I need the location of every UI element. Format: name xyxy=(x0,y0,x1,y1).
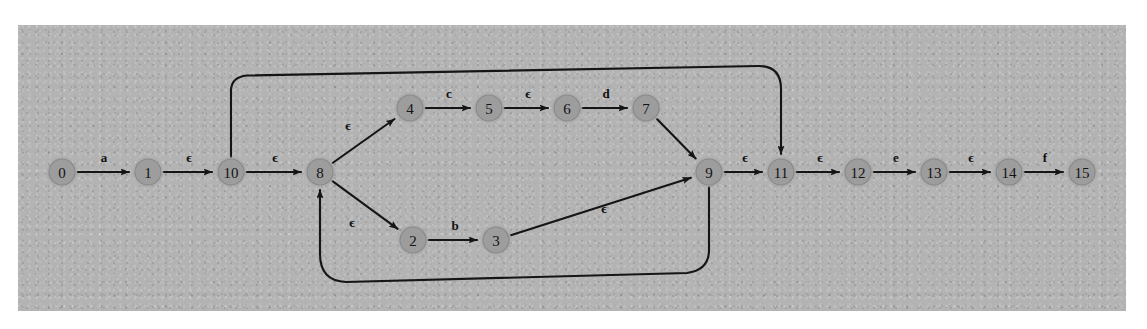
state-node-12[interactable]: 12 xyxy=(843,157,874,188)
state-node-1[interactable]: 1 xyxy=(133,157,164,188)
state-node-label: 15 xyxy=(1075,165,1090,181)
state-node-0[interactable]: 0 xyxy=(47,157,78,188)
edge-7-to-9 xyxy=(657,119,696,159)
state-node-4[interactable]: 4 xyxy=(395,93,426,124)
edge-label-5-6: ϵ xyxy=(525,86,531,101)
edge-label-0-1: a xyxy=(101,150,108,165)
state-node-label: 8 xyxy=(316,165,324,181)
nodes-layer: 0110845672391112131415 xyxy=(47,93,1098,256)
edge-label-14-15: f xyxy=(1043,150,1048,165)
state-node-15[interactable]: 15 xyxy=(1067,157,1098,188)
edge-label-1-10: ϵ xyxy=(186,150,192,165)
state-node-label: 9 xyxy=(705,165,713,181)
edge-8-to-2 xyxy=(333,181,398,229)
state-node-label: 12 xyxy=(851,165,866,181)
state-node-label: 3 xyxy=(492,233,500,249)
edge-label-2-3: b xyxy=(451,218,458,233)
edge-label-4-5: c xyxy=(446,86,452,101)
state-node-7[interactable]: 7 xyxy=(631,93,662,124)
state-node-8[interactable]: 8 xyxy=(305,157,336,188)
state-node-label: 6 xyxy=(563,101,571,117)
state-node-9[interactable]: 9 xyxy=(694,157,725,188)
state-node-label: 5 xyxy=(485,101,493,117)
edge-label-3-9: ϵ xyxy=(601,201,607,216)
state-node-label: 4 xyxy=(406,101,414,117)
edge-10-to-11 xyxy=(231,66,781,157)
state-node-14[interactable]: 14 xyxy=(994,157,1025,188)
state-node-6[interactable]: 6 xyxy=(552,93,583,124)
state-node-3[interactable]: 3 xyxy=(481,225,512,256)
state-node-label: 11 xyxy=(774,165,788,181)
state-node-label: 2 xyxy=(409,233,417,249)
edge-label-13-14: ϵ xyxy=(968,150,974,165)
state-node-label: 10 xyxy=(224,165,239,181)
state-node-10[interactable]: 10 xyxy=(216,157,247,188)
edge-label-6-7: d xyxy=(602,86,610,101)
state-node-label: 13 xyxy=(927,165,942,181)
state-node-5[interactable]: 5 xyxy=(474,93,505,124)
figure-stage: 0110845672391112131415 aϵϵϵcϵdϵbϵϵϵeϵf xyxy=(0,0,1147,329)
edge-label-9-11: ϵ xyxy=(742,150,748,165)
edge-8-to-4 xyxy=(333,119,395,163)
state-node-label: 14 xyxy=(1002,165,1018,181)
state-node-11[interactable]: 11 xyxy=(766,157,797,188)
edge-label-12-13: e xyxy=(893,150,899,165)
edge-label-8-2: ϵ xyxy=(349,215,355,230)
state-node-label: 7 xyxy=(642,101,650,117)
state-node-label: 1 xyxy=(144,165,152,181)
edge-label-10-8: ϵ xyxy=(272,150,278,165)
edge-label-11-12: ϵ xyxy=(817,150,823,165)
state-node-label: 0 xyxy=(58,165,66,181)
state-node-13[interactable]: 13 xyxy=(919,157,950,188)
nfa-diagram: 0110845672391112131415 aϵϵϵcϵdϵbϵϵϵeϵf xyxy=(0,0,1147,329)
state-node-2[interactable]: 2 xyxy=(398,225,429,256)
edge-label-8-4: ϵ xyxy=(345,118,351,133)
